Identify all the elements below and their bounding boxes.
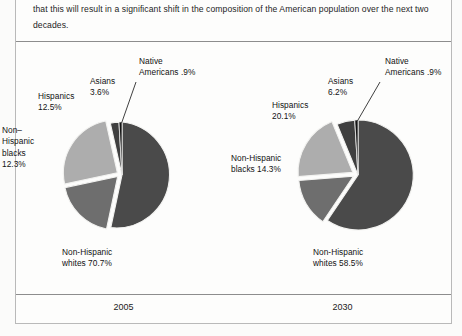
label-asians: Asians 3.6% (90, 76, 115, 99)
leader-line-native (122, 82, 136, 123)
label-asians: Asians 6.2% (328, 76, 353, 99)
label-non-hispanic-whites: Non-Hispanic whites 58.5% (313, 247, 363, 270)
label-hispanics: Hispanics 20.1% (272, 100, 308, 123)
label-non-hispanic-blacks: Non-Hispanic blacks 14.3% (231, 153, 281, 176)
pie-chart-2005: Native Americans .9% Asians 3.6% Hispani… (14, 50, 233, 335)
label-native-americans: Native Americans .9% (385, 56, 441, 79)
label-native-americans: Native Americans .9% (139, 56, 195, 79)
pie-slices-2030 (298, 120, 413, 230)
slice-whites (327, 120, 413, 230)
label-non-hispanic-whites: Non-Hispanic whites 70.7% (62, 247, 112, 270)
label-non-hispanic-blacks: Non– Hispanic blacks 12.3% (2, 125, 34, 171)
pie-chart-2030: Native Americans .9% Asians 6.2% Hispani… (233, 50, 452, 335)
year-label-2030: 2030 (233, 302, 452, 312)
divider-top (16, 41, 451, 42)
intro-paragraph: that this will result in a significant s… (33, 2, 437, 33)
label-hispanics: Hispanics 12.5% (38, 91, 74, 114)
slice-blacks (65, 176, 118, 229)
scanned-page: that this will result in a significant s… (0, 0, 462, 336)
pie-graphic-2005 (14, 50, 233, 300)
year-label-2005: 2005 (14, 302, 233, 312)
pie-slices-2005 (63, 121, 169, 229)
leader-line-native (357, 82, 380, 121)
slice-hispanics (63, 121, 117, 184)
